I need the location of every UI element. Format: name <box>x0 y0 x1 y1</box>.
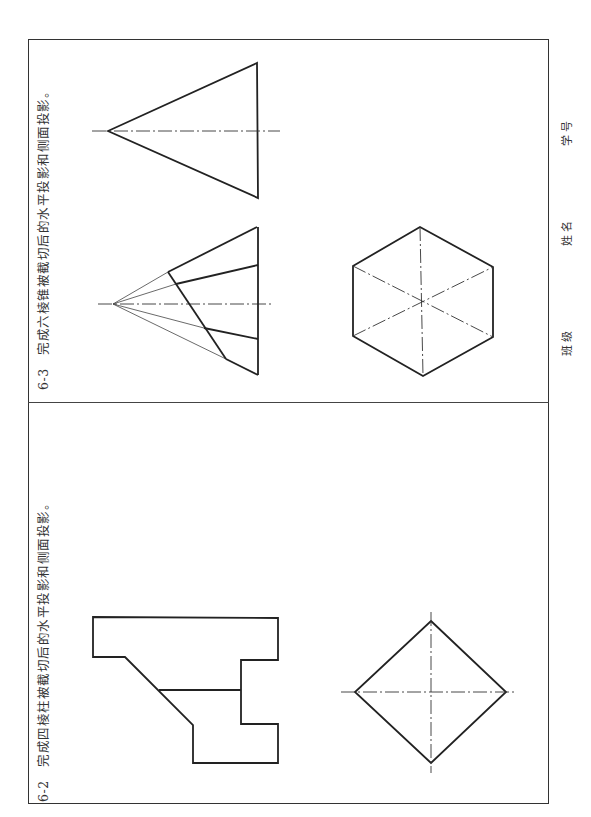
technical-drawings <box>0 0 591 817</box>
top-view-square-diamond <box>341 612 516 773</box>
front-view-cut-prism <box>93 617 278 763</box>
side-view-triangle <box>92 63 280 198</box>
front-view-cut-hexagonal-pyramid <box>98 227 272 375</box>
top-view-hexagon <box>353 227 493 376</box>
